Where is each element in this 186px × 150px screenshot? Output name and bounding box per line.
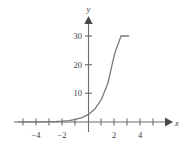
x-tick-label-neg-4: −4	[31, 130, 41, 140]
x-axis-label: x	[174, 118, 179, 128]
x-axis-arrow-icon	[165, 118, 173, 127]
exponential-curve	[18, 36, 129, 122]
y-axis-arrow-icon	[84, 16, 92, 24]
y-axis-label: y	[86, 4, 91, 14]
x-axis-group: −4 −2 2 4 x	[14, 118, 179, 141]
x-tick-label-pos-2: 2	[112, 130, 116, 140]
plot-canvas: −4 −2 2 4 x 10 20 30 y	[0, 0, 186, 150]
exponential-function-graph: −4 −2 2 4 x 10 20 30 y	[0, 0, 186, 150]
y-tick-label-10: 10	[74, 88, 83, 98]
x-tick-label-pos-4: 4	[138, 130, 143, 140]
y-tick-label-30: 30	[74, 31, 83, 41]
x-tick-label-neg-2: −2	[57, 130, 66, 140]
y-tick-label-20: 20	[74, 60, 83, 70]
